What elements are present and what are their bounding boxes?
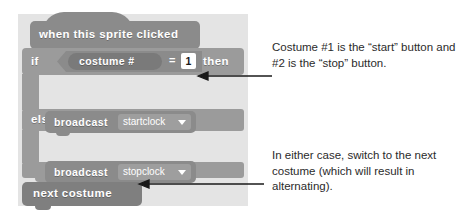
block-broadcast-startclock[interactable]: broadcast startclock (45, 111, 196, 133)
else-branch-spine (22, 130, 39, 163)
if-branch-spine (22, 74, 39, 110)
block-next-costume[interactable]: next costume (22, 182, 142, 206)
broadcast-message-start-value: startclock (123, 116, 165, 127)
block-if-else[interactable]: if costume # = 1 then else (22, 48, 244, 180)
when-this-sprite-clicked-label: when this sprite clicked (39, 28, 178, 40)
block-costume-number-reporter[interactable]: costume # (68, 53, 162, 70)
broadcast-start-notch (56, 132, 70, 136)
screenshot-root: when this sprite clicked if costume # = … (0, 0, 462, 218)
scratch-script-panel: when this sprite clicked if costume # = … (18, 14, 248, 206)
block-when-this-sprite-clicked[interactable]: when this sprite clicked (30, 21, 200, 49)
broadcast-message-dropdown-stop[interactable]: stopclock (118, 164, 191, 180)
blocks-layer: when this sprite clicked if costume # = … (18, 14, 248, 206)
then-label: then (203, 55, 229, 67)
equals-sign-label: = (169, 54, 175, 66)
costume-number-input[interactable]: 1 (181, 53, 196, 69)
broadcast-message-dropdown-start[interactable]: startclock (118, 114, 191, 130)
chevron-down-icon (178, 120, 186, 125)
annotation-next-costume: In either case, switch to the next costu… (272, 148, 460, 195)
costume-number-label: costume # (79, 55, 135, 67)
broadcast-label-start: broadcast (54, 116, 108, 128)
block-broadcast-stopclock[interactable]: broadcast stopclock (45, 161, 196, 183)
block-equals-operator[interactable]: costume # = 1 (57, 51, 202, 72)
chevron-down-icon (178, 170, 186, 175)
if-else-top-bar: if costume # = 1 then (22, 48, 244, 75)
annotation-costume-buttons: Costume #1 is the “start” button and #2 … (272, 40, 458, 71)
broadcast-label-stop: broadcast (54, 166, 108, 178)
next-costume-notch (35, 205, 51, 210)
next-costume-label: next costume (33, 187, 112, 199)
broadcast-message-stop-value: stopclock (123, 166, 165, 177)
if-label: if (31, 55, 39, 67)
